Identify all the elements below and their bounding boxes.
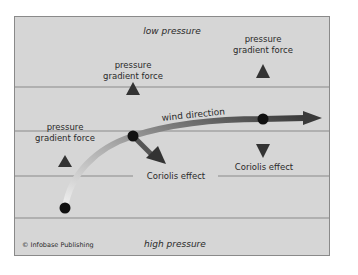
pgf-label-left: gradient force: [35, 133, 95, 143]
coriolis-label-middle: Coriolis effect: [147, 171, 206, 181]
credit-text: © Infobase Publishing: [22, 241, 94, 249]
arrowhead-icon: [256, 144, 270, 158]
pgf-label-middle: pressure: [115, 60, 152, 70]
wind-point-end: [258, 114, 269, 125]
arrowhead-icon: [58, 155, 72, 167]
coriolis-label-right: Coriolis effect: [235, 162, 294, 172]
pgf-label-middle: gradient force: [103, 71, 163, 81]
low-pressure-label: low pressure: [143, 26, 201, 36]
pgf-label-left: pressure: [47, 122, 84, 132]
high-pressure-label: high pressure: [144, 239, 206, 249]
wind-arrowhead-icon: [303, 111, 322, 125]
pgf-label-right: pressure: [245, 34, 282, 44]
coriolis-arrow-middle: [135, 138, 152, 155]
arrowhead-icon: [256, 64, 270, 78]
arrowhead-icon: [126, 82, 140, 95]
wind-point-middle: [128, 131, 139, 142]
wind-point-start: [60, 203, 71, 214]
pgf-label-right: gradient force: [233, 45, 293, 55]
diagram-canvas: low pressure high pressure © Infobase Pu…: [0, 0, 358, 275]
